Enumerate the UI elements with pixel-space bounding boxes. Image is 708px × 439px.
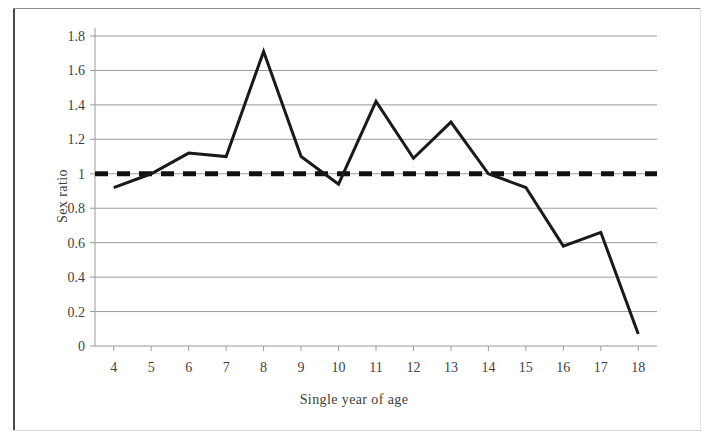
x-tick-label: 15 bbox=[519, 360, 533, 375]
y-tick-label: 0 bbox=[78, 339, 85, 354]
figure-panel: 00.20.40.60.811.21.41.61.8 4567891011121… bbox=[0, 0, 708, 439]
y-tick-label: 1.6 bbox=[68, 63, 86, 78]
x-tick-label: 4 bbox=[110, 360, 117, 375]
x-tick-label: 5 bbox=[148, 360, 155, 375]
x-tick-label: 12 bbox=[406, 360, 420, 375]
y-tick-label: 0.4 bbox=[68, 270, 86, 285]
x-tick-label: 14 bbox=[481, 360, 495, 375]
x-axis-title: Single year of age bbox=[0, 392, 708, 408]
x-tick-label: 10 bbox=[332, 360, 346, 375]
y-axis-title: Sex ratio bbox=[55, 126, 71, 266]
y-tick-label: 0.2 bbox=[68, 305, 86, 320]
data-series-sex-ratio bbox=[114, 52, 639, 334]
y-tick-label: 1.4 bbox=[68, 98, 86, 113]
y-axis-ticks: 00.20.40.60.811.21.41.61.8 bbox=[68, 29, 96, 354]
y-tick-label: 1.8 bbox=[68, 29, 86, 44]
gridlines bbox=[95, 36, 657, 312]
x-tick-label: 11 bbox=[369, 360, 382, 375]
axis-lines bbox=[95, 28, 657, 346]
x-axis-ticks: 456789101112131415161718 bbox=[110, 346, 645, 375]
x-tick-label: 16 bbox=[556, 360, 570, 375]
x-tick-label: 17 bbox=[594, 360, 608, 375]
x-tick-label: 18 bbox=[631, 360, 645, 375]
x-tick-label: 9 bbox=[298, 360, 305, 375]
x-tick-label: 8 bbox=[260, 360, 267, 375]
line-chart: 00.20.40.60.811.21.41.61.8 4567891011121… bbox=[0, 0, 708, 439]
x-tick-label: 6 bbox=[185, 360, 192, 375]
y-tick-label: 1 bbox=[78, 167, 85, 182]
series-line bbox=[114, 52, 639, 334]
x-tick-label: 13 bbox=[444, 360, 458, 375]
x-tick-label: 7 bbox=[223, 360, 230, 375]
